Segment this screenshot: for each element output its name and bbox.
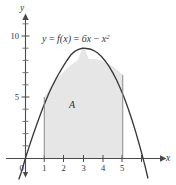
equation-fx: f(x) bbox=[57, 33, 72, 45]
equation-eq2: = bbox=[71, 33, 82, 44]
y-axis-arrow-icon bbox=[22, 14, 28, 21]
equation-eq1: = bbox=[46, 33, 57, 44]
x-tick-label-4: 4 bbox=[101, 163, 106, 173]
shaded-region-A-precise bbox=[44, 59, 123, 158]
y-tick-label-5: 5 bbox=[15, 92, 19, 102]
equation-exponent: 2 bbox=[106, 33, 110, 40]
x-axis-label: x bbox=[165, 153, 171, 163]
y-axis-label: y bbox=[19, 3, 25, 13]
x-tick-label-1: 1 bbox=[42, 163, 46, 173]
equation-minus: − bbox=[91, 33, 102, 44]
x-tick-label-0: 0 bbox=[19, 163, 23, 173]
function-plot: y x 10 5 0 1 2 3 4 5 A y = f(x) = 6x − x… bbox=[0, 0, 176, 185]
x-tick-label-3: 3 bbox=[81, 163, 85, 173]
x-tick-label-2: 2 bbox=[61, 163, 65, 173]
x-tick-label-5: 5 bbox=[120, 163, 124, 173]
figure-container: y x 10 5 0 1 2 3 4 5 A y = f(x) = 6x − x… bbox=[0, 0, 176, 185]
y-tick-label-10: 10 bbox=[11, 31, 20, 41]
equation-label: y = f(x) = 6x − x2 bbox=[41, 33, 110, 46]
region-label-A: A bbox=[68, 99, 76, 110]
